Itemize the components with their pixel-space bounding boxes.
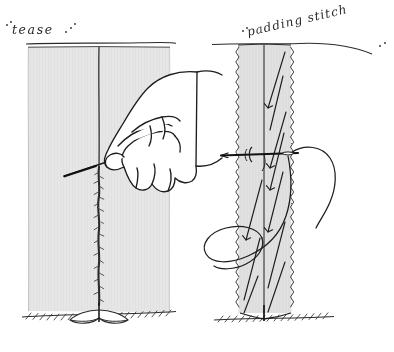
illustration-canvas: tease	[0, 0, 394, 352]
right-fabric	[238, 44, 292, 313]
left-panel-label-text: tease	[12, 22, 54, 37]
